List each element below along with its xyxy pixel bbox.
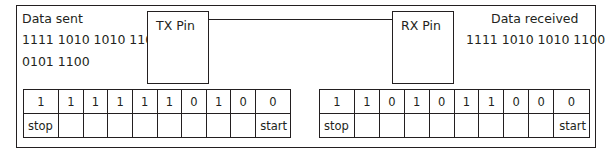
rx-bit: 1	[404, 90, 429, 114]
tx-frame-table: 1 1 1 1 1 1 0 1 0 0 stop start	[23, 89, 291, 138]
tx-stop-marker: stop	[24, 114, 59, 138]
data-received-line-1: 1111 1010 1010 1100	[466, 32, 605, 47]
tx-marker	[83, 114, 108, 138]
tx-marker-row: stop start	[24, 114, 291, 138]
rx-marker	[355, 114, 380, 138]
rx-bit: 1	[454, 90, 479, 114]
rx-bit: 0	[429, 90, 454, 114]
rx-marker	[454, 114, 479, 138]
rx-bit: 1	[355, 90, 380, 114]
rx-bit: 0	[529, 90, 554, 114]
rx-marker	[529, 114, 554, 138]
tx-bit-row: 1 1 1 1 1 1 0 1 0 0	[24, 90, 291, 114]
rx-stop-marker: stop	[320, 114, 355, 138]
data-sent-line-2: 0101 1100	[22, 54, 90, 69]
rx-frame-table: 1 1 0 1 0 1 1 0 0 0 stop start	[319, 89, 590, 138]
data-sent-line-1: 1111 1010 1010 1100	[22, 32, 161, 47]
rx-start-marker: start	[554, 114, 590, 138]
rx-bit: 0	[554, 90, 590, 114]
tx-marker	[157, 114, 182, 138]
rx-bit-row: 1 1 0 1 0 1 1 0 0 0	[320, 90, 590, 114]
tx-bit: 1	[132, 90, 157, 114]
rx-bit: 1	[320, 90, 355, 114]
tx-marker	[182, 114, 207, 138]
tx-bit: 1	[24, 90, 59, 114]
tx-marker	[108, 114, 133, 138]
rx-marker	[504, 114, 529, 138]
rx-pin-box: RX Pin	[392, 11, 454, 84]
tx-pin-box: TX Pin	[147, 11, 209, 84]
rx-bit: 1	[479, 90, 504, 114]
tx-bit: 1	[83, 90, 108, 114]
rx-marker	[379, 114, 404, 138]
tx-bit: 0	[256, 90, 291, 114]
serial-wire	[208, 19, 393, 20]
rx-marker	[404, 114, 429, 138]
tx-bit: 1	[206, 90, 231, 114]
rx-marker-row: stop start	[320, 114, 590, 138]
tx-bit: 1	[108, 90, 133, 114]
tx-bit: 1	[157, 90, 182, 114]
tx-marker	[231, 114, 256, 138]
rx-pin-label: RX Pin	[401, 18, 441, 33]
tx-bit: 0	[231, 90, 256, 114]
rx-marker	[429, 114, 454, 138]
rx-bit: 0	[504, 90, 529, 114]
tx-bit: 1	[59, 90, 84, 114]
tx-marker	[132, 114, 157, 138]
tx-bit: 0	[182, 90, 207, 114]
tx-marker	[206, 114, 231, 138]
tx-marker	[59, 114, 84, 138]
rx-bit: 0	[379, 90, 404, 114]
data-received-heading: Data received	[491, 11, 578, 26]
tx-pin-label: TX Pin	[156, 18, 195, 33]
rx-marker	[479, 114, 504, 138]
tx-start-marker: start	[256, 114, 291, 138]
data-sent-heading: Data sent	[22, 11, 83, 26]
